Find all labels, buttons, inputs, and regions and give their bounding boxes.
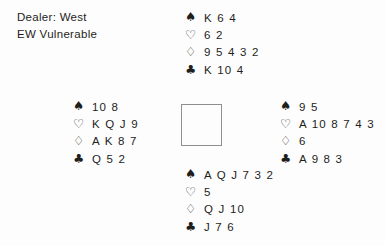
- suit-row: ♡ 5: [185, 183, 274, 200]
- diamond-icon: ♢: [280, 135, 299, 148]
- diamond-icon: ♢: [185, 203, 204, 216]
- heart-icon: ♡: [73, 118, 92, 131]
- spade-icon: ♠: [185, 11, 204, 24]
- west-spades-cards: 10 8: [92, 101, 119, 113]
- north-diamonds-cards: 9 5 4 3 2: [204, 46, 260, 58]
- vulnerability-text: EW Vulnerable: [17, 26, 97, 43]
- east-clubs-cards: A 9 8 3: [299, 153, 343, 165]
- suit-row: ♣ J 7 6: [185, 218, 274, 235]
- south-diamonds-cards: Q J 10: [204, 203, 245, 215]
- heart-icon: ♡: [280, 118, 299, 131]
- suit-row: ♡ K Q J 9: [73, 115, 139, 132]
- diamond-icon: ♢: [73, 135, 92, 148]
- spade-icon: ♠: [280, 100, 299, 113]
- west-clubs-cards: Q 5 2: [92, 153, 126, 165]
- heart-icon: ♡: [185, 186, 204, 199]
- west-hearts-cards: K Q J 9: [92, 118, 139, 130]
- west-diamonds-cards: A K 8 7: [92, 135, 137, 147]
- east-diamonds-cards: 6: [299, 135, 307, 147]
- suit-row: ♠ 9 5: [280, 98, 375, 115]
- suit-row: ♠ A Q J 7 3 2: [185, 166, 274, 183]
- south-hand: ♠ A Q J 7 3 2 ♡ 5 ♢ Q J 10 ♣ J 7 6: [185, 166, 274, 236]
- suit-row: ♠ K 6 4: [185, 9, 260, 26]
- heart-icon: ♡: [185, 29, 204, 42]
- north-hearts-cards: 6 2: [204, 29, 224, 41]
- suit-row: ♢ A K 8 7: [73, 133, 139, 150]
- spade-icon: ♠: [73, 100, 92, 113]
- north-hand: ♠ K 6 4 ♡ 6 2 ♢ 9 5 4 3 2 ♣ K 10 4: [185, 9, 260, 79]
- suit-row: ♣ Q 5 2: [73, 150, 139, 167]
- suit-row: ♡ A 10 8 7 4 3: [280, 115, 375, 132]
- suit-row: ♣ K 10 4: [185, 61, 260, 78]
- club-icon: ♣: [185, 64, 204, 77]
- diamond-icon: ♢: [185, 46, 204, 59]
- suit-row: ♡ 6 2: [185, 26, 260, 43]
- south-clubs-cards: J 7 6: [204, 221, 235, 233]
- suit-row: ♢ Q J 10: [185, 201, 274, 218]
- north-clubs-cards: K 10 4: [204, 64, 244, 76]
- club-icon: ♣: [185, 221, 204, 234]
- south-spades-cards: A Q J 7 3 2: [204, 169, 274, 181]
- suit-row: ♠ 10 8: [73, 98, 139, 115]
- suit-row: ♢ 9 5 4 3 2: [185, 44, 260, 61]
- west-hand: ♠ 10 8 ♡ K Q J 9 ♢ A K 8 7 ♣ Q 5 2: [73, 98, 139, 168]
- east-hearts-cards: A 10 8 7 4 3: [299, 118, 375, 130]
- suit-row: ♢ 6: [280, 133, 375, 150]
- south-hearts-cards: 5: [204, 186, 212, 198]
- club-icon: ♣: [280, 153, 299, 166]
- board-info: Dealer: West EW Vulnerable: [17, 9, 97, 43]
- table-compass-box: [181, 104, 222, 146]
- dealer-text: Dealer: West: [17, 9, 97, 26]
- club-icon: ♣: [73, 153, 92, 166]
- east-hand: ♠ 9 5 ♡ A 10 8 7 4 3 ♢ 6 ♣ A 9 8 3: [280, 98, 375, 168]
- suit-row: ♣ A 9 8 3: [280, 150, 375, 167]
- east-spades-cards: 9 5: [299, 101, 319, 113]
- spade-icon: ♠: [185, 168, 204, 181]
- bridge-deal-diagram: Dealer: West EW Vulnerable ♠ K 6 4 ♡ 6 2…: [0, 0, 385, 245]
- north-spades-cards: K 6 4: [204, 12, 237, 24]
